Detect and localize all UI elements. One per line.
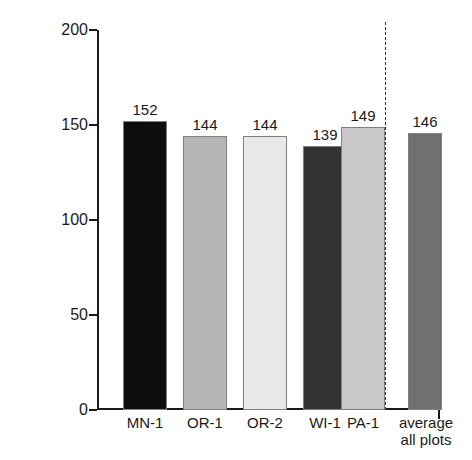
- bar-value-or-2: 144: [252, 117, 277, 132]
- bar-value-mn-1: 152: [132, 102, 157, 117]
- bar-chart: Shelled Corn Yield bu./acre @ 15.5% mois…: [0, 0, 472, 460]
- x-label-or-1: OR-1: [173, 414, 237, 431]
- x-label-average-line-1: average: [391, 414, 461, 431]
- bar-rect-or-1[interactable]: [183, 136, 227, 410]
- y-tick-label-200: 200: [40, 22, 88, 38]
- bar-value-average-all-plots: 146: [412, 114, 437, 129]
- y-tick-label-100: 100: [40, 212, 88, 228]
- y-tick-label-150: 150: [40, 117, 88, 133]
- y-tick-100: [89, 219, 97, 221]
- bar-rect-or-2[interactable]: [243, 136, 287, 410]
- y-tick-0: [89, 409, 97, 411]
- group-separator-dashed-line: [385, 22, 386, 410]
- bar-mn-1[interactable]: 152: [123, 102, 167, 410]
- bar-value-pa-1: 149: [350, 108, 375, 123]
- bar-rect-pa-1[interactable]: [341, 127, 385, 410]
- bar-pa-1[interactable]: 149: [341, 108, 385, 410]
- bar-average-all-plots[interactable]: 146: [408, 114, 442, 410]
- y-tick-150: [89, 124, 97, 126]
- bar-rect-mn-1[interactable]: [123, 121, 167, 410]
- bar-or-1[interactable]: 144: [183, 117, 227, 410]
- x-axis-labels: MN-1 OR-1 OR-2 WI-1 PA-1 average all plo…: [97, 414, 440, 460]
- y-tick-label-50: 50: [40, 307, 88, 323]
- x-label-pa-1: PA-1: [331, 414, 395, 431]
- bar-value-or-1: 144: [192, 117, 217, 132]
- x-label-average-all-plots: average all plots: [391, 414, 461, 449]
- y-tick-label-0: 0: [40, 402, 88, 418]
- bar-value-wi-1: 139: [312, 127, 337, 142]
- x-label-mn-1: MN-1: [113, 414, 177, 431]
- x-label-or-2: OR-2: [233, 414, 297, 431]
- bar-or-2[interactable]: 144: [243, 117, 287, 410]
- x-label-average-line-2: all plots: [391, 431, 461, 448]
- y-tick-200: [89, 29, 97, 31]
- y-tick-50: [89, 314, 97, 316]
- plot-area: 200 150 100 50 0 152 144 144 139 149: [97, 30, 440, 410]
- y-axis-line: [97, 30, 99, 410]
- bar-rect-average-all-plots[interactable]: [408, 133, 442, 410]
